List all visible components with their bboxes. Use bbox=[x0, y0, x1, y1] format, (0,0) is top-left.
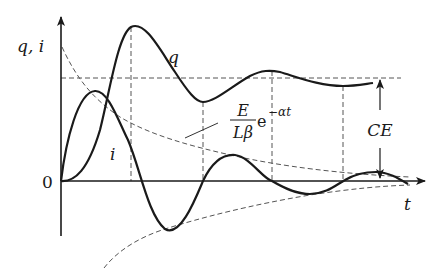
lower-envelope-curve bbox=[104, 185, 410, 268]
current-curve-label: i bbox=[110, 144, 115, 164]
steady-state-label: CE bbox=[367, 120, 393, 140]
origin-label: 0 bbox=[42, 172, 53, 192]
damped-oscillation-diagram: q, i 0 t q i E Lβ e −αt CE bbox=[0, 0, 445, 277]
envelope-numerator: E bbox=[236, 101, 249, 120]
envelope-leader-line bbox=[185, 123, 218, 138]
envelope-exponent: −αt bbox=[268, 105, 291, 119]
charge-curve-label: q bbox=[168, 47, 179, 67]
charge-curve-q bbox=[61, 26, 373, 181]
envelope-formula: E Lβ e −αt bbox=[230, 101, 291, 142]
envelope-denominator: Lβ bbox=[232, 123, 253, 142]
y-axis-label: q, i bbox=[17, 36, 44, 56]
envelope-base: e bbox=[257, 112, 266, 131]
x-axis-label: t bbox=[404, 194, 411, 214]
